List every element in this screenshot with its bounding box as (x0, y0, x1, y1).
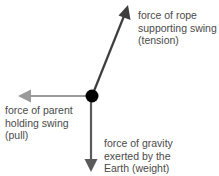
pull-arrow (18, 90, 92, 103)
weight-label: force of gravity exerted by the Earth (w… (104, 137, 173, 175)
free-body-diagram: force of rope supporting swing (tension)… (0, 0, 219, 176)
swing-dot (86, 90, 99, 103)
tension-label: force of rope supporting swing (tension) (138, 9, 217, 47)
pull-label: force of parent holding swing (pull) (5, 104, 73, 142)
weight-arrow (85, 96, 98, 172)
tension-arrow (92, 5, 131, 96)
